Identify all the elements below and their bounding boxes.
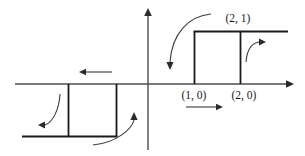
point-labels-group: (2, 1) (1, 0) (2, 0) [182, 12, 257, 102]
down-curve-arrowhead [166, 62, 173, 70]
label-point-2-1: (2, 1) [226, 12, 251, 25]
down-curve-arrow-shaft [170, 14, 211, 62]
right-curve-arrowhead [259, 39, 266, 46]
lower-branch-group [22, 84, 117, 137]
left-curve-arrowhead [38, 122, 45, 129]
x-axis-arrowhead [286, 80, 294, 88]
axes-group [15, 8, 294, 150]
left-curve-arrow-shaft [45, 94, 60, 125]
label-point-2-0: (2, 0) [232, 89, 257, 102]
curved-direction-arrows [38, 14, 266, 145]
right-curve-arrow-shaft [246, 42, 259, 62]
up-curve-arrowhead [130, 112, 137, 120]
label-point-1-0: (1, 0) [182, 89, 207, 102]
upper-branch-group [194, 32, 288, 85]
hysteresis-figure: (2, 1) (1, 0) (2, 0) [0, 0, 305, 156]
left-straight-arrowhead [79, 69, 86, 75]
right-straight-arrowhead [216, 104, 223, 110]
hysteresis-diagram-svg: (2, 1) (1, 0) (2, 0) [0, 0, 305, 156]
y-axis-arrowhead [144, 8, 152, 16]
up-curve-arrow-shaft [93, 120, 134, 145]
